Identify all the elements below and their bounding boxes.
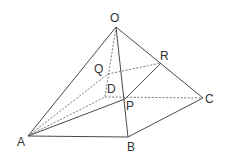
vertex-label-o: O [110, 12, 119, 24]
vertex-label-b: B [127, 141, 135, 153]
vertex-label-a: A [17, 136, 25, 148]
edge-bc [128, 98, 203, 137]
vertex-label-c: C [205, 93, 214, 105]
edge-ab [28, 136, 128, 137]
point-label-q: Q [94, 63, 103, 75]
edge-aq [28, 74, 108, 136]
edge-dc [105, 97, 203, 98]
edge-ad [28, 97, 105, 136]
point-label-p: P [126, 100, 134, 112]
vertex-label-d: D [107, 83, 116, 95]
point-label-r: R [160, 50, 169, 62]
edge-ob [116, 27, 128, 137]
edge-pr [125, 63, 161, 99]
edge-qr [108, 63, 161, 74]
